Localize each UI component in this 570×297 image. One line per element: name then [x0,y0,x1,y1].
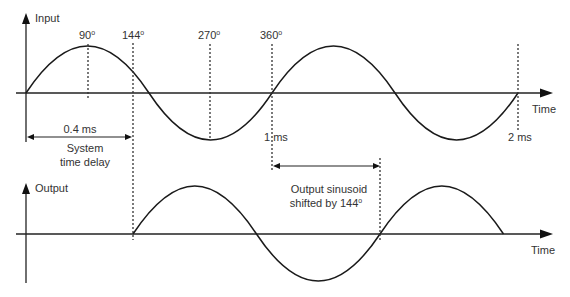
delay-value-label: 0.4 ms [63,123,97,135]
angle-label-90: 90o [79,29,95,41]
time-marker-2ms: 2 ms [508,131,532,143]
shift-annotation-line2: shifted by 144o [290,197,363,209]
output-axis-label: Output [35,182,68,194]
delay-caption-line1: System [67,142,104,154]
input-panel: Input Time 90o 144o 270o 360o 1 ms 2 ms … [16,12,556,240]
angle-label-270: 270o [198,29,220,41]
arrowhead-left-icon [273,163,280,169]
shift-annotation-line1: Output sinusoid [291,183,367,195]
shift-dimension-arrow [273,163,380,169]
input-y-axis-arrow-icon [22,13,30,24]
input-time-label: Time [532,103,556,115]
angle-label-144: 144o [122,29,144,41]
arrowhead-right-icon [373,163,380,169]
arrowhead-left-icon [27,134,34,140]
output-panel: Output Time Output sinusoid shifted by 1… [16,158,555,283]
input-time-axis-arrow-icon [540,89,553,98]
time-marker-1ms: 1 ms [264,131,288,143]
output-y-axis-arrow-icon [22,183,30,194]
output-time-label: Time [531,244,555,256]
output-time-axis-arrow-icon [540,230,553,239]
angle-label-360: 360o [260,29,282,41]
phase-shift-diagram: Input Time 90o 144o 270o 360o 1 ms 2 ms … [0,0,570,297]
arrowhead-right-icon [125,134,132,140]
delay-caption-line2: time delay [60,156,111,168]
input-axis-label: Input [35,12,59,24]
